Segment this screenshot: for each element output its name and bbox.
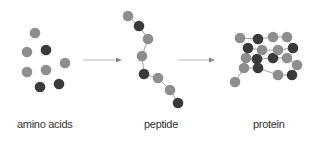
amino-acids-cluster bbox=[22, 28, 71, 93]
residue-dark bbox=[139, 69, 150, 80]
residue-light bbox=[292, 60, 303, 71]
residue-dark bbox=[134, 21, 145, 32]
label-peptide: peptide bbox=[144, 118, 178, 130]
protein-folded-chain bbox=[230, 32, 303, 88]
residue-light bbox=[268, 32, 279, 43]
residue-light bbox=[273, 70, 284, 81]
residue-light bbox=[257, 45, 268, 56]
residue-dark bbox=[54, 79, 65, 90]
residue-dark bbox=[253, 34, 264, 45]
residue-light bbox=[123, 11, 134, 22]
residue-dark bbox=[173, 98, 184, 109]
residue-light bbox=[60, 58, 71, 69]
residue-dark bbox=[253, 63, 264, 74]
arrow-head-icon bbox=[116, 58, 122, 63]
residue-light bbox=[282, 53, 293, 64]
residue-dark bbox=[35, 82, 46, 93]
residue-light bbox=[235, 33, 246, 44]
residue-dark bbox=[41, 45, 52, 56]
residue-light bbox=[230, 77, 241, 88]
residue-light bbox=[22, 47, 33, 58]
residue-light bbox=[241, 53, 252, 64]
arrows bbox=[83, 58, 215, 63]
residue-light bbox=[22, 67, 33, 78]
residue-light bbox=[143, 34, 154, 45]
peptide-chain bbox=[123, 11, 184, 109]
residue-dark bbox=[288, 43, 299, 54]
label-protein: protein bbox=[253, 118, 285, 130]
arrow-head-icon bbox=[209, 58, 215, 63]
residue-light bbox=[153, 73, 164, 84]
residue-light bbox=[41, 65, 52, 76]
residue-light bbox=[239, 63, 250, 74]
residue-dark bbox=[243, 43, 254, 54]
residue-light bbox=[282, 32, 293, 43]
residue-dark bbox=[252, 54, 263, 65]
residue-light bbox=[30, 28, 41, 39]
residue-light bbox=[137, 51, 148, 62]
label-amino-acids: amino acids bbox=[17, 118, 72, 130]
residue-light bbox=[165, 85, 176, 96]
residue-light bbox=[273, 45, 284, 56]
residue-dark bbox=[287, 70, 298, 81]
